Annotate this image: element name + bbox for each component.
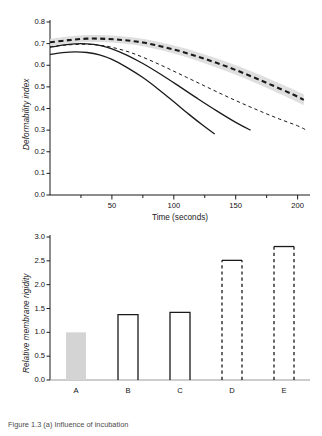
bar-chart-y-tick-label: 2.5	[19, 256, 45, 265]
line-chart-x-axis-title: Time (seconds)	[80, 213, 280, 222]
line-chart-y-tick-label: 0.5	[19, 82, 45, 91]
line-chart-panel: Deformability index Time (seconds) 0.00.…	[0, 0, 322, 225]
bar-chart-y-tick-label: 3.0	[19, 232, 45, 241]
bar-chart-bar	[66, 332, 86, 380]
line-chart-x-tick-label: 50	[97, 201, 127, 210]
figure-container: Deformability index Time (seconds) 0.00.…	[0, 0, 322, 436]
bar-chart-bar	[170, 312, 190, 380]
line-chart-y-tick-label: 0.8	[19, 17, 45, 26]
bar-chart-category-label: D	[217, 386, 247, 395]
line-chart-y-tick-label: 0.0	[19, 190, 45, 199]
bar-chart-y-tick-label: 0.5	[19, 351, 45, 360]
bar-fill	[66, 332, 86, 380]
line-chart-x-tick-label: 200	[283, 201, 313, 210]
line-chart-x-tick-label: 150	[221, 201, 251, 210]
bar-chart-category-label: B	[113, 386, 143, 395]
bar-chart-panel: Relative membrane rigidity 0.00.51.01.52…	[0, 225, 322, 415]
bar-chart-category-label: A	[61, 386, 91, 395]
bar-chart-category-label: C	[165, 386, 195, 395]
line-chart-y-tick-label: 0.7	[19, 39, 45, 48]
bar-chart-y-tick-label: 2.0	[19, 280, 45, 289]
line-chart-svg	[0, 0, 322, 225]
line-chart-y-tick-label: 0.3	[19, 125, 45, 134]
line-chart-y-tick-label: 0.6	[19, 60, 45, 69]
bar-chart-bar	[274, 247, 294, 380]
line-chart-y-tick-label: 0.1	[19, 168, 45, 177]
bar-chart-bar	[118, 315, 138, 380]
figure-caption: Figure 1.3 (a) Influence of incubation	[8, 420, 318, 429]
line-chart-y-tick-label: 0.2	[19, 147, 45, 156]
line-chart-y-tick-label: 0.4	[19, 104, 45, 113]
bar-chart-y-tick-label: 1.5	[19, 304, 45, 313]
bar-chart-category-label: E	[269, 386, 299, 395]
line-chart-x-tick-label: 100	[159, 201, 189, 210]
bar-outline	[170, 312, 190, 380]
line-chart-series	[50, 44, 251, 130]
bar-chart-y-tick-label: 1.0	[19, 327, 45, 336]
bar-chart-bar	[222, 260, 242, 380]
bar-chart-y-tick-label: 0.0	[19, 375, 45, 384]
line-chart-confidence-band	[50, 35, 304, 105]
bar-outline	[118, 315, 138, 380]
